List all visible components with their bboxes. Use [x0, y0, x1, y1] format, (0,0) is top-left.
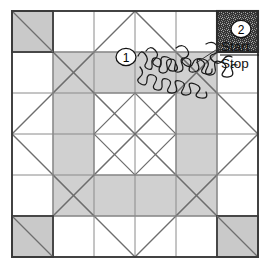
- marker-badge-2: 2: [231, 20, 251, 37]
- corner-square-bottom-left: [12, 216, 53, 257]
- corner-square-bottom-right: [217, 216, 258, 257]
- corner-square-top-left: [12, 11, 53, 52]
- marker-1-label: 1: [123, 51, 130, 65]
- marker-badge-1: 1: [116, 48, 136, 65]
- geometric-diagram: 1 2 Start Stop: [0, 0, 266, 265]
- marker-2-label: 2: [238, 23, 245, 37]
- start-label: Start: [221, 39, 250, 54]
- figure-canvas: 1 2 Start Stop: [0, 0, 266, 265]
- stop-label: Stop: [221, 56, 249, 71]
